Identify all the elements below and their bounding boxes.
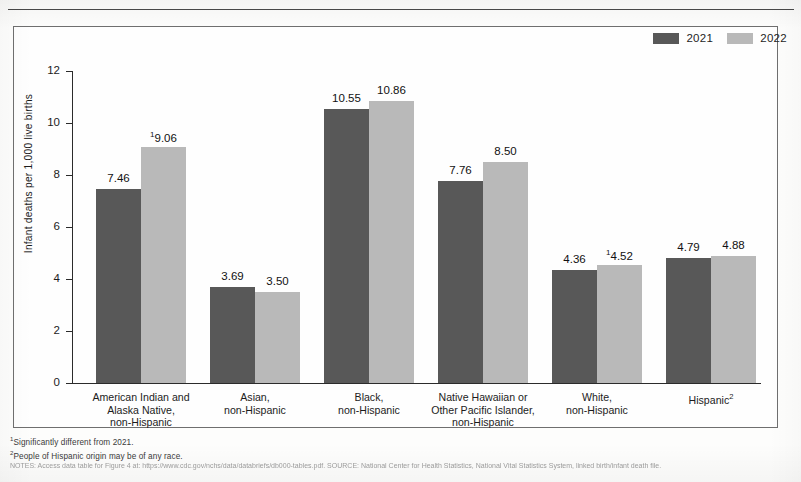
footnote-1: 1Significantly different from 2021.	[10, 434, 570, 448]
bar-value-label-2022-3: 8.50	[471, 145, 541, 157]
bar-value-label-2022-4: 14.52	[585, 248, 655, 262]
footnote-2-text: People of Hispanic origin may be of any …	[13, 452, 182, 461]
bar-value-label-2022-1: 3.50	[243, 275, 313, 287]
legend-swatch-2021	[653, 33, 679, 44]
footnote-source: NOTES: Access data table for Figure 4 at…	[10, 462, 570, 470]
bar-series-container: 7.4619.063.693.5010.5510.867.768.504.361…	[0, 0, 801, 482]
bar-2022-3[interactable]	[483, 162, 528, 383]
chart-legend: 2021 2022	[653, 32, 787, 44]
legend-item-2022[interactable]: 2022	[727, 32, 787, 44]
legend-label-2021: 2021	[686, 32, 713, 44]
footnotes-block: 1Significantly different from 2021. 2Peo…	[10, 434, 570, 470]
footnote-2: 2People of Hispanic origin may be of any…	[10, 448, 570, 462]
bar-2021-5[interactable]	[666, 258, 711, 383]
legend-label-2022: 2022	[760, 32, 787, 44]
footnote-1-text: Significantly different from 2021.	[13, 438, 133, 447]
bar-2022-1[interactable]	[255, 292, 300, 383]
bar-value-label-2022-0: 19.06	[129, 130, 199, 144]
bar-2021-1[interactable]	[210, 287, 255, 383]
bar-value-label-2022-2: 10.86	[357, 84, 427, 96]
bar-2022-2[interactable]	[369, 101, 414, 383]
bar-2022-5[interactable]	[711, 256, 756, 383]
bar-2022-4[interactable]	[597, 265, 642, 383]
legend-swatch-2022	[727, 33, 753, 44]
bar-value-label-2022-5: 4.88	[699, 239, 769, 251]
bar-2021-0[interactable]	[96, 189, 141, 383]
bar-2022-0[interactable]	[141, 147, 186, 383]
bar-2021-2[interactable]	[324, 109, 369, 383]
bar-2021-3[interactable]	[438, 181, 483, 383]
bar-2021-4[interactable]	[552, 270, 597, 383]
legend-item-2021[interactable]: 2021	[653, 32, 713, 44]
